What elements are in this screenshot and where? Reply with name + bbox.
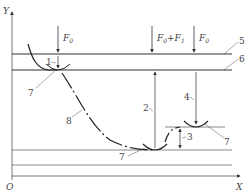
callout-7a: 7: [28, 88, 34, 98]
curve-8-top: [28, 44, 57, 70]
diagram-canvas: Y X O F0 F0+F1 F0 1 2 4 3 5 6 7 7 7: [0, 0, 247, 193]
leader-7a: [36, 70, 56, 88]
callout-2: 2: [143, 103, 149, 113]
leader-5: [224, 42, 238, 54]
leader-7c: [205, 124, 224, 138]
leader-8: [72, 110, 82, 117]
curve-8: [62, 73, 152, 150]
force-label-middle: F0+F1: [156, 33, 185, 44]
callout-7c: 7: [224, 137, 230, 147]
force-label-right: F0: [198, 33, 209, 44]
callout-5: 5: [239, 36, 245, 46]
callout-6: 6: [239, 54, 245, 64]
callout-1: 1: [46, 57, 52, 67]
curve-rise: [165, 127, 180, 142]
callout-8: 8: [66, 116, 72, 126]
callout-4: 4: [184, 92, 190, 102]
force-label-left: F0: [62, 33, 73, 44]
callout-7b: 7: [119, 152, 125, 162]
x-axis-label: X: [235, 182, 243, 192]
origin-label: O: [6, 182, 14, 192]
y-axis-label: Y: [3, 6, 10, 16]
callout-3: 3: [187, 132, 193, 142]
leader-6: [224, 59, 238, 70]
